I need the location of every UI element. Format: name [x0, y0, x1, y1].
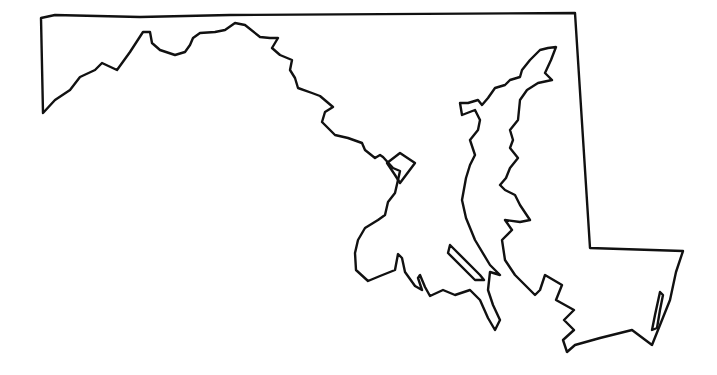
- border-notch-outline: [387, 153, 415, 183]
- maryland-map: [0, 0, 717, 375]
- island-outline-bay: [448, 245, 484, 280]
- maryland-mainland-outline: [41, 13, 683, 352]
- map-canvas: [0, 0, 717, 375]
